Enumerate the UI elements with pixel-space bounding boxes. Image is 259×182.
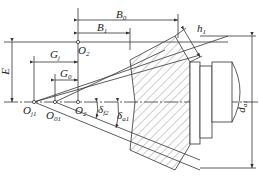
label-E: E: [0, 68, 11, 75]
bevel-gear-diagram: B0 B1 h1 E Gj G0 δf2 δa1 da1 Oj1 O01 O2 …: [0, 0, 259, 182]
diagram-drawing: [0, 0, 259, 182]
gear-hub: [190, 62, 200, 144]
label-h1: h1: [197, 23, 206, 36]
point-O01: [53, 100, 56, 103]
label-B0: B0: [116, 9, 126, 22]
label-G0: G0: [60, 68, 71, 81]
label-Gj: Gj: [50, 49, 60, 62]
label-da1: da1: [236, 100, 249, 113]
label-delta-f2: δf2: [98, 104, 109, 117]
gear-section: [130, 36, 190, 170]
label-Oj1: Oj1: [23, 105, 36, 118]
shaft: [200, 66, 212, 138]
label-delta-a1: δa1: [117, 110, 129, 123]
label-O01: O01: [46, 110, 61, 123]
label-B1: B1: [97, 22, 107, 35]
label-O2-axis: O2: [75, 105, 86, 118]
label-O2-top: O2: [78, 45, 89, 58]
point-Oj1: [32, 100, 35, 103]
